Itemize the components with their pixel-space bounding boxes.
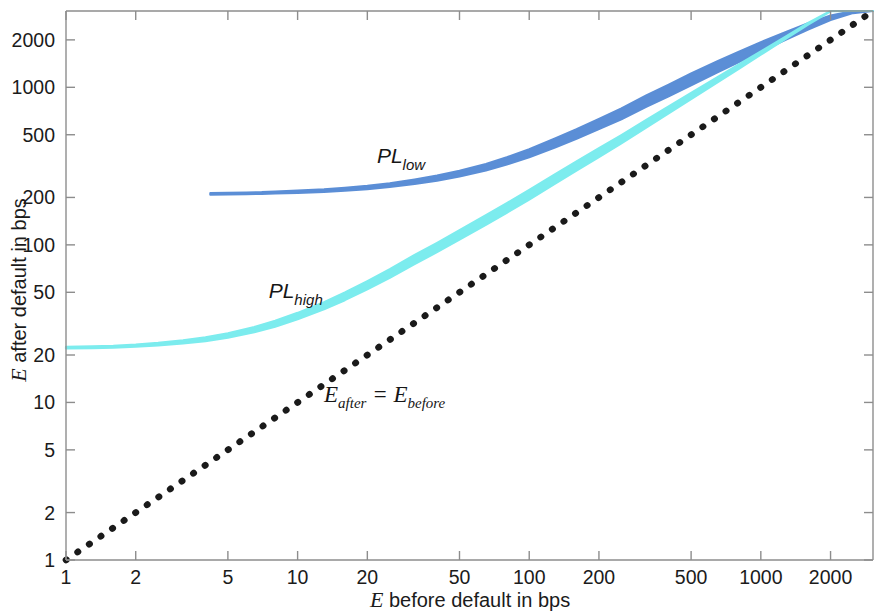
x-tick-label-2000: 2000 [809,566,853,588]
x-tick-label-200: 200 [583,566,616,588]
svg-text:E before default in bps: E before default in bps [369,587,570,612]
x-tick-label-10: 10 [287,566,309,588]
x-tick-label-50: 50 [449,566,471,588]
svg-text:E after default in bps: E after default in bps [6,198,31,383]
x-axis-title: E before default in bps [369,587,570,612]
x-tick-label-100: 100 [513,566,546,588]
y-tick-label-20: 20 [33,344,55,366]
x-tick-label-1: 1 [61,566,72,588]
x-tick-label-2: 2 [130,566,141,588]
x-tick-label-5: 5 [222,566,233,588]
x-tick-label-1000: 1000 [739,566,783,588]
chart-figure: 1251020501002005001000200012510205010020… [0,0,880,616]
log-log-credit-spread-chart: 1251020501002005001000200012510205010020… [0,0,880,616]
y-axis-title-symbol: E [6,368,31,383]
x-axis-title-text: before default in bps [383,589,570,611]
x-tick-label-500: 500 [675,566,708,588]
y-tick-label-2: 2 [44,502,55,524]
y-tick-label-2000: 2000 [12,29,56,51]
y-tick-label-10: 10 [33,391,55,413]
y-axis-title-text: after default in bps [8,198,30,368]
x-axis-title-symbol: E [369,587,384,612]
y-tick-label-5: 5 [44,439,55,461]
y-axis-title: E after default in bps [6,198,31,383]
y-tick-label-1: 1 [44,549,55,571]
y-tick-label-500: 500 [22,124,55,146]
x-tick-label-20: 20 [356,566,378,588]
y-tick-label-50: 50 [33,281,55,303]
y-tick-label-1000: 1000 [12,76,56,98]
